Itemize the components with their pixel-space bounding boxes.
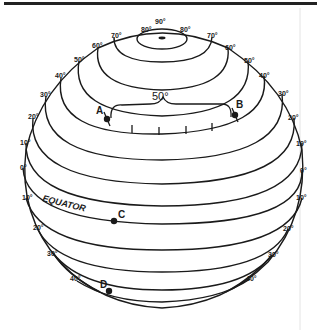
left-label-10n: 10°: [20, 139, 31, 146]
left-label-30s: 30°: [47, 250, 58, 257]
label-80-right: 80°: [180, 26, 191, 33]
right-label-10n: 10°: [296, 140, 307, 147]
right-label-20n: 20°: [288, 114, 299, 121]
latitude-0-equator: [23, 168, 302, 224]
right-label-40s: 40°: [246, 275, 257, 282]
latitude-40: [60, 76, 264, 134]
left-label-30n: 30°: [40, 91, 51, 98]
left-label-20s: 20°: [33, 224, 44, 231]
latitude-30: [45, 94, 282, 160]
point-c-label: C: [118, 209, 125, 220]
label-80-left: 80°: [141, 26, 152, 33]
point-a: [104, 116, 110, 122]
arc-brace: [111, 97, 231, 118]
arc-distance-label: 50°: [152, 90, 169, 102]
latitude-lines: [23, 29, 303, 308]
pole-label: 90°: [155, 18, 166, 25]
right-label-50n: 50°: [244, 57, 255, 64]
right-label-10s: 10°: [296, 194, 307, 201]
right-label-30n: 30°: [278, 90, 289, 97]
point-b-label: B: [236, 99, 243, 110]
left-label-0: 0°: [20, 164, 27, 171]
right-label-60n: 60°: [225, 44, 236, 51]
latitude-20n: [33, 118, 295, 184]
left-label-40s: 40°: [70, 275, 81, 282]
left-label-10s: 10°: [22, 194, 33, 201]
left-label-40n: 40°: [55, 72, 66, 79]
right-label-70n: 70°: [207, 32, 218, 39]
left-label-60n: 60°: [92, 42, 103, 49]
right-label-0: 0°: [300, 167, 307, 174]
point-c: [111, 218, 117, 224]
latitude-10n: [26, 143, 302, 206]
globe-outline-right: [162, 48, 303, 308]
globe-diagram: A B C D 50° EQUATOR 90° 80° 70° 80° 60° …: [0, 0, 324, 330]
point-b: [232, 112, 238, 118]
left-label-50n: 50°: [74, 56, 85, 63]
point-d-label: D: [100, 279, 107, 290]
point-a-label: A: [96, 105, 103, 116]
left-label-20n: 20°: [28, 113, 39, 120]
right-label-30s: 30°: [268, 251, 279, 258]
label-70-left: 70°: [111, 32, 122, 39]
right-label-20s: 20°: [283, 225, 294, 232]
north-pole-marker: [159, 37, 166, 40]
right-label-40n: 40°: [259, 72, 270, 79]
top-frame-bar: [4, 2, 317, 5]
latitude-60: [98, 48, 229, 90]
globe-outline-left: [25, 48, 162, 308]
